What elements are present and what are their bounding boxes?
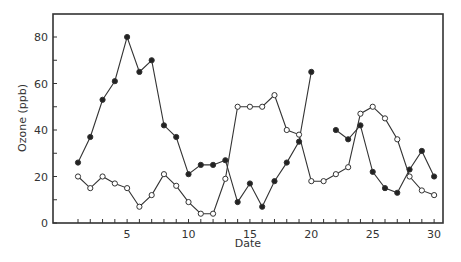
x-tick-label: 20 [304, 228, 318, 241]
open-data-point [149, 193, 154, 198]
open-data-point [186, 199, 191, 204]
filled-data-point [223, 158, 228, 163]
open-data-point [223, 176, 228, 181]
filled-data-point [395, 190, 400, 195]
axis-ticks: 51015202530020406080 [34, 31, 441, 241]
filled-data-point [75, 160, 80, 165]
filled-data-point [432, 174, 437, 179]
open-data-point [235, 104, 240, 109]
filled-data-point [198, 162, 203, 167]
open-data-point [100, 174, 105, 179]
filled-data-point [260, 204, 265, 209]
open-data-point [210, 211, 215, 216]
filled-data-point [247, 181, 252, 186]
filled-data-point [309, 69, 314, 74]
x-tick-label: 25 [366, 228, 380, 241]
filled-data-point [186, 172, 191, 177]
x-tick-label: 5 [124, 228, 131, 241]
filled-data-point [125, 34, 130, 39]
filled-data-point [149, 58, 154, 63]
y-axis-label: Ozone (ppb) [16, 84, 29, 152]
open-data-point [370, 104, 375, 109]
filled-data-point [284, 160, 289, 165]
open-data-point [247, 104, 252, 109]
filled-data-point [100, 97, 105, 102]
y-tick-label: 40 [34, 124, 48, 137]
ozone-line-chart: 51015202530020406080 Date Ozone (ppb) [0, 0, 461, 262]
filled-data-point [88, 134, 93, 139]
filled-data-point [419, 148, 424, 153]
open-data-point [309, 179, 314, 184]
open-data-point [296, 132, 301, 137]
x-tick-label: 30 [427, 228, 441, 241]
series-markers [75, 34, 436, 216]
open-data-point [284, 127, 289, 132]
open-data-point [358, 111, 363, 116]
filled-data-point [112, 79, 117, 84]
open-data-point [321, 179, 326, 184]
series-lines [78, 37, 434, 214]
open-data-point [112, 181, 117, 186]
x-tick-label: 10 [182, 228, 196, 241]
open-data-point [382, 116, 387, 121]
open-data-point [137, 204, 142, 209]
filled-data-point [235, 199, 240, 204]
y-tick-label: 0 [41, 217, 48, 230]
filled-data-point [358, 123, 363, 128]
filled-data-point [296, 139, 301, 144]
open-data-point [174, 183, 179, 188]
filled-data-point [370, 169, 375, 174]
y-tick-label: 80 [34, 31, 48, 44]
filled-data-point [161, 123, 166, 128]
y-tick-label: 60 [34, 78, 48, 91]
open-data-point [432, 193, 437, 198]
x-axis-label: Date [235, 237, 262, 250]
filled-data-point [333, 127, 338, 132]
open-data-point [272, 93, 277, 98]
open-data-point [88, 186, 93, 191]
open-data-point [161, 172, 166, 177]
filled-data-point [272, 179, 277, 184]
filled-data-point [382, 186, 387, 191]
open-data-point [395, 137, 400, 142]
open-data-point [346, 165, 351, 170]
filled-series-line [336, 125, 434, 193]
y-tick-label: 20 [34, 171, 48, 184]
filled-data-point [346, 137, 351, 142]
filled-data-point [210, 162, 215, 167]
open-data-point [75, 174, 80, 179]
filled-data-point [174, 134, 179, 139]
open-data-point [260, 104, 265, 109]
open-data-point [419, 188, 424, 193]
filled-data-point [137, 69, 142, 74]
open-data-point [407, 174, 412, 179]
open-data-point [125, 186, 130, 191]
open-data-point [333, 172, 338, 177]
filled-data-point [407, 167, 412, 172]
open-data-point [198, 211, 203, 216]
